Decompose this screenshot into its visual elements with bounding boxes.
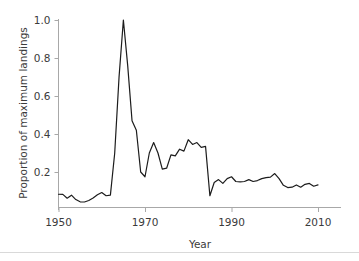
x-axis-ticks: 1950197019902010 [45, 208, 331, 229]
figure-bottom-rule [0, 252, 359, 253]
y-tick-label: 0.6 [34, 90, 51, 102]
x-tick-label: 1990 [218, 216, 245, 228]
y-tick-label: 0.2 [34, 166, 51, 178]
x-tick-label: 1950 [45, 216, 72, 228]
chart-figure: 0.20.40.60.81.0 1950197019902010 Year Pr… [0, 0, 359, 261]
line-chart: 0.20.40.60.81.0 1950197019902010 Year Pr… [0, 0, 359, 261]
y-tick-label: 0.4 [34, 128, 51, 140]
y-tick-label: 1.0 [34, 14, 51, 26]
data-series-line [59, 20, 319, 202]
y-tick-label: 0.8 [34, 52, 51, 64]
x-axis-title: Year [188, 238, 212, 250]
x-tick-label: 2010 [305, 216, 332, 228]
y-axis-ticks: 0.20.40.60.81.0 [34, 14, 59, 178]
x-tick-label: 1970 [132, 216, 159, 228]
y-axis-title: Proportion of maximum landings [17, 27, 29, 199]
